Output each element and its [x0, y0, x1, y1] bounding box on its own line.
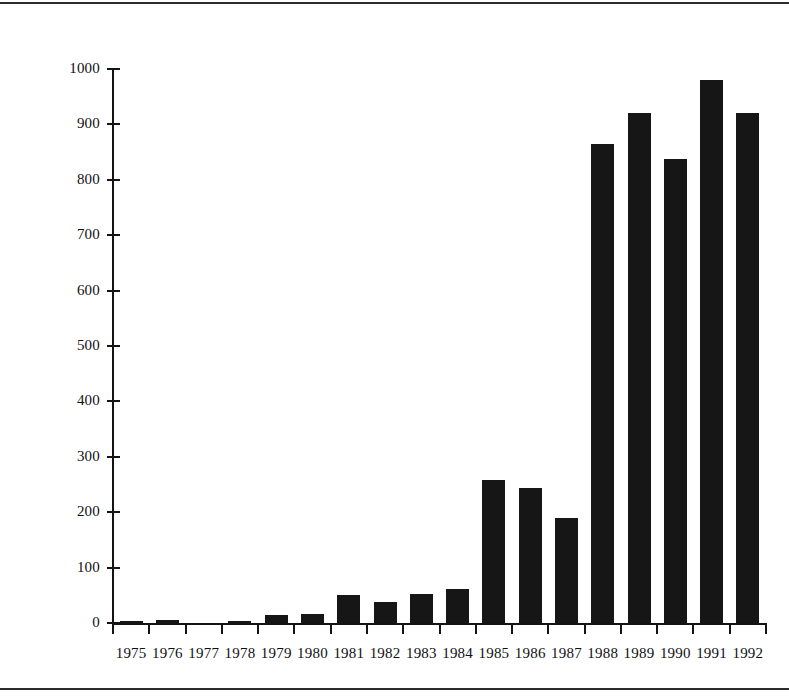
bar-chart: 01002003004005006007008009001000 1975197…	[0, 0, 789, 698]
y-axis-tick-label: 800	[28, 172, 100, 187]
y-axis-tick	[107, 567, 120, 569]
y-axis-tick-label: 400	[28, 393, 100, 408]
y-axis-tick	[107, 456, 120, 458]
bar	[156, 620, 179, 623]
y-axis-tick	[107, 123, 120, 125]
x-axis-tick	[656, 623, 658, 634]
y-axis-tick	[107, 511, 120, 513]
bar	[736, 113, 759, 623]
y-axis-tick-label-text: 800	[38, 172, 100, 187]
bar	[446, 589, 469, 623]
y-axis-tick-label: 200	[28, 504, 100, 519]
x-axis-tick	[620, 623, 622, 634]
y-axis-tick-label-text: 0	[38, 615, 100, 630]
bar	[374, 602, 397, 623]
y-axis-tick-label: 700	[28, 227, 100, 242]
y-axis-tick-label-text: 600	[38, 283, 100, 298]
x-axis-tick	[511, 623, 513, 634]
x-axis-tick	[148, 623, 150, 634]
bar	[591, 144, 614, 623]
bar	[664, 159, 687, 623]
x-axis-tick	[729, 623, 731, 634]
y-axis-tick	[107, 179, 120, 181]
bar	[120, 621, 143, 623]
bar	[519, 488, 542, 623]
bar	[482, 480, 505, 623]
bar	[301, 614, 324, 623]
bar	[228, 621, 251, 623]
x-axis-tick	[221, 623, 223, 634]
x-axis-tick	[185, 623, 187, 634]
y-axis-tick	[107, 345, 120, 347]
y-axis-tick-label-text: 1000	[38, 61, 100, 76]
bar	[410, 594, 433, 623]
y-axis-tick-label-text: 900	[38, 116, 100, 131]
x-axis-tick-label: 1992	[726, 645, 770, 661]
y-axis-tick-label: 900	[28, 116, 100, 131]
x-axis-tick	[112, 623, 114, 634]
bar	[337, 595, 360, 623]
x-axis-tick	[257, 623, 259, 634]
bar	[265, 615, 288, 623]
y-axis-tick	[107, 234, 120, 236]
y-axis-tick-label-text: 300	[38, 449, 100, 464]
y-axis-tick-label: 0	[28, 615, 100, 630]
x-axis-tick	[439, 623, 441, 634]
y-axis-tick-label-text: 200	[38, 504, 100, 519]
x-axis-tick	[366, 623, 368, 634]
y-axis-tick-label-text: 400	[38, 393, 100, 408]
y-axis-tick-label: 500	[28, 338, 100, 353]
y-axis-tick	[107, 290, 120, 292]
x-axis-tick	[692, 623, 694, 634]
y-axis-tick-label: 300	[28, 449, 100, 464]
x-axis-tick	[547, 623, 549, 634]
bar	[628, 113, 651, 623]
x-axis-tick	[475, 623, 477, 634]
x-axis-tick	[402, 623, 404, 634]
x-axis-tick	[584, 623, 586, 634]
bar	[700, 80, 723, 623]
y-axis-tick	[107, 400, 120, 402]
x-axis-tick	[330, 623, 332, 634]
x-axis-tick	[293, 623, 295, 634]
y-axis-tick-label: 100	[28, 560, 100, 575]
y-axis-tick-label: 600	[28, 283, 100, 298]
y-axis-tick	[107, 68, 120, 70]
x-axis-tick	[765, 623, 767, 634]
y-axis-tick-label-text: 700	[38, 227, 100, 242]
y-axis-tick-label-text: 500	[38, 338, 100, 353]
bar	[555, 518, 578, 623]
y-axis-tick-label: 1000	[28, 61, 100, 76]
y-axis-tick-label-text: 100	[38, 560, 100, 575]
